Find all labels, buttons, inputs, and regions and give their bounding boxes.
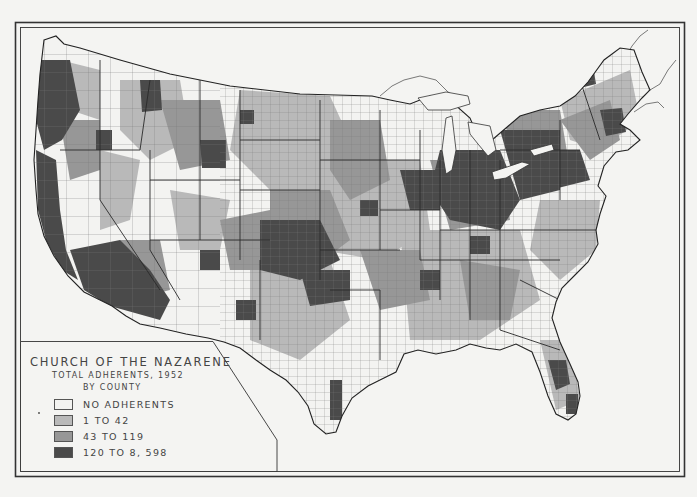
legend-swatch — [54, 431, 73, 442]
legend-label: NO ADHERENTS — [83, 399, 175, 410]
legend-subtitle-county: BY COUNTY — [83, 383, 142, 392]
legend-label: 43 TO 119 — [83, 431, 144, 442]
legend-swatch — [54, 447, 73, 458]
legend-swatch — [54, 415, 73, 426]
legend-item-mid: 43 TO 119 — [54, 430, 144, 442]
legend-subtitle: TOTAL ADHERENTS, 1952 — [52, 371, 184, 380]
legend-item-none: NO ADHERENTS — [54, 398, 175, 410]
legend-swatch — [54, 399, 73, 410]
legend-item-low: 1 TO 42 — [54, 414, 130, 426]
legend-item-high: 120 TO 8, 598 — [54, 446, 168, 458]
legend-label: 120 TO 8, 598 — [83, 447, 168, 458]
legend-title: CHURCH OF THE NAZARENE — [30, 355, 232, 369]
legend-label: 1 TO 42 — [83, 415, 130, 426]
